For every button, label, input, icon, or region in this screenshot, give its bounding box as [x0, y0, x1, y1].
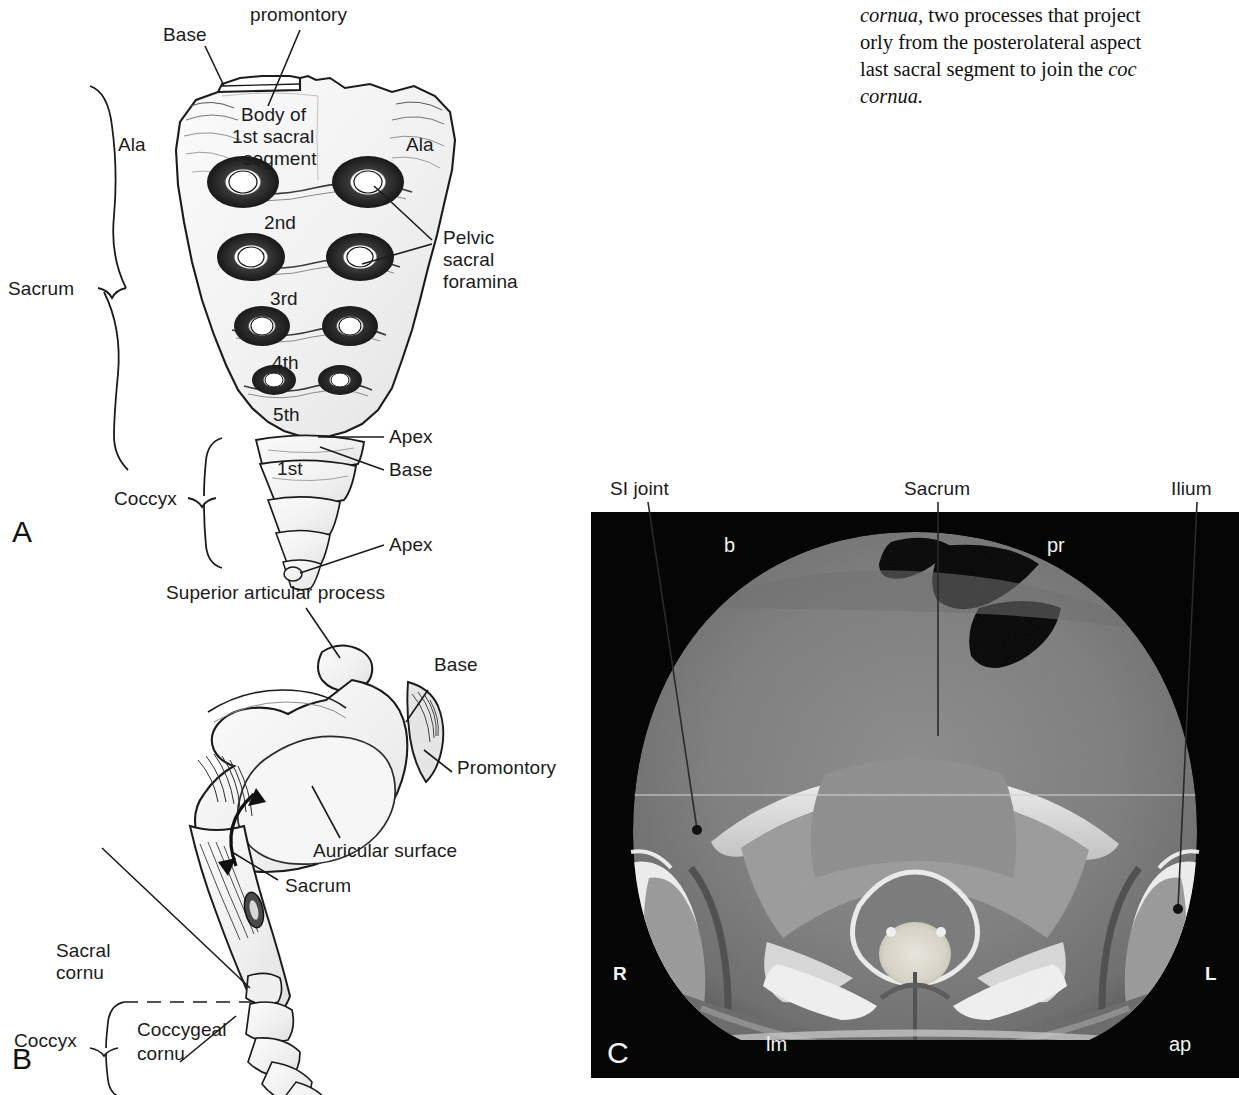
label-body-line-3: segment: [243, 148, 317, 169]
label-coccygeal-cornu-line-1: Coccygeal: [137, 1019, 227, 1040]
label-sacrum-ct: Sacrum: [904, 478, 970, 499]
label-coccyx-bracket: Coccyx: [114, 488, 177, 509]
ct-marker-ap: ap: [1169, 1033, 1191, 1056]
label-sacrum-bracket: Sacrum: [8, 278, 74, 299]
coccyx-drawing: [256, 435, 364, 589]
pelvic-sacral-foramina: [207, 156, 404, 395]
panel-b-leader-lines: [102, 608, 452, 1062]
body-text-line-1: cornua, two processes that project: [860, 2, 1239, 29]
label-body-line-1: Body of: [241, 104, 306, 125]
panel-a-illustration: [0, 0, 620, 580]
sacrum-lateral-drawing: [190, 645, 443, 1095]
label-segment-3rd: 3rd: [270, 288, 298, 309]
label-coccyx-1st: 1st: [277, 458, 303, 479]
label-segment-5th: 5th: [273, 404, 300, 425]
label-promontory-lateral: Promontory: [457, 757, 556, 778]
motion-arrow: [231, 794, 254, 866]
label-apex-coccyx: Apex: [389, 534, 433, 555]
panel-b-illustration: [0, 570, 620, 1095]
label-coccygeal-cornu-line-2: cornu: [137, 1043, 185, 1064]
ct-axial-slice: [591, 512, 1239, 1078]
label-sacral-cornu-line-1: Sacral: [56, 940, 110, 961]
label-superior-articular-process: Superior articular process: [166, 582, 385, 603]
label-body-line-2: 1st sacral: [232, 126, 314, 147]
body-text-line-3: last sacral segment to join the coc: [860, 56, 1239, 83]
label-ilium: Ilium: [1171, 478, 1212, 499]
panel-c-ct-image: b pr R L lm ap C: [591, 512, 1239, 1078]
panel-c-letter: C: [607, 1036, 629, 1070]
label-segment-4th: 4th: [272, 352, 299, 373]
label-auricular-surface: Auricular surface: [313, 840, 457, 861]
label-foramina-line-3: foramina: [443, 271, 518, 292]
ct-marker-left: L: [1205, 963, 1217, 985]
label-base-lateral: Base: [434, 654, 478, 675]
label-ala-right: Ala: [406, 134, 434, 155]
ct-marker-b: b: [724, 534, 735, 557]
label-base-coccyx: Base: [389, 459, 433, 480]
panel-a-letter: A: [12, 515, 32, 549]
label-apex-sacrum: Apex: [389, 426, 433, 447]
label-foramina-line-1: Pelvic: [443, 227, 494, 248]
label-sacrum-lateral: Sacrum: [285, 875, 351, 896]
label-si-joint: SI joint: [610, 478, 669, 499]
body-text-line-2: orly from the posterolateral aspect: [860, 29, 1239, 56]
label-segment-2nd: 2nd: [264, 212, 296, 233]
label-promontory: promontory: [250, 4, 347, 25]
sacrum-body-drawing: [176, 76, 455, 437]
ct-marker-lm: lm: [766, 1033, 787, 1056]
label-foramina-line-2: sacral: [443, 249, 494, 270]
label-base-sacrum: Base: [163, 24, 207, 45]
figure-page: cornua, two processes that project orly …: [0, 0, 1239, 1095]
label-ala-left: Ala: [118, 134, 146, 155]
label-sacral-cornu-line-2: cornu: [56, 962, 104, 983]
ct-marker-right: R: [613, 963, 627, 985]
body-text-line-4: cornua.: [860, 83, 1239, 110]
body-text-column: cornua, two processes that project orly …: [860, 2, 1239, 110]
ct-marker-pr: pr: [1047, 534, 1065, 557]
panel-b-letter: B: [12, 1042, 32, 1076]
